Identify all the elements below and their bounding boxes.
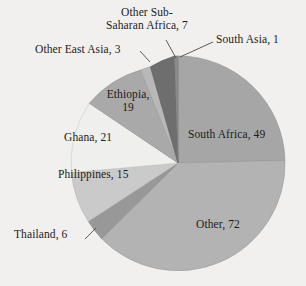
pie-chart-figure: Other Sub- Saharan Africa, 7 South Asia,… [0, 0, 306, 286]
leader-line-other-sub-saharan-africa [166, 40, 176, 58]
pie-slice-south-africa[interactable] [178, 56, 285, 163]
pie-label-other: Other, 72 [196, 218, 240, 231]
pie-label-philippines: Philippines, 15 [58, 168, 129, 181]
pie-label-ethiopia: Ethiopia, 19 [100, 88, 156, 113]
pie-label-ghana: Ghana, 21 [64, 131, 112, 144]
pie-label-ethiopia-line1: Ethiopia, [107, 88, 150, 100]
pie-label-ethiopia-line2: 19 [122, 101, 134, 113]
pie-label-other-east-asia: Other East Asia, 3 [35, 43, 120, 56]
pie-label-south-asia: South Asia, 1 [216, 33, 279, 46]
leader-line-south-asia [180, 42, 213, 57]
pie-label-thailand: Thailand, 6 [14, 228, 67, 241]
leader-line-thailand [85, 228, 96, 239]
leader-line-other-east-asia [140, 51, 150, 62]
pie-label-other-sub-saharan-africa-line2: Saharan Africa, 7 [106, 19, 188, 31]
pie-label-south-africa: South Africa, 49 [188, 128, 265, 141]
pie-label-other-sub-saharan-africa-line1: Other Sub- [121, 6, 173, 18]
pie-label-other-sub-saharan-africa: Other Sub- Saharan Africa, 7 [88, 6, 206, 32]
